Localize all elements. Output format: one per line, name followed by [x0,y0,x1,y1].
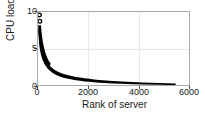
xtick-label-2000: 2000 [78,87,98,97]
series-cpu-load-head [38,25,51,67]
ytick-label-10: 10 [27,6,37,16]
xtick-label-6000: 6000 [179,87,199,97]
outlier-marker-1 [38,13,41,17]
outlier-marker-2 [38,19,42,23]
y-axis-title: CPU load [5,0,16,58]
ytick-label-5: 5 [32,43,37,53]
series-cpu-load-band [38,29,175,85]
xtick-label-4000: 4000 [129,87,149,97]
chart-figure: 0 2000 4000 6000 0 5 10 Rank of server C… [0,0,205,121]
plot-area [37,11,190,86]
ytick-label-0: 0 [32,81,37,91]
data-plot-svg [38,12,189,85]
data-series-layer [38,12,189,85]
x-axis-title: Rank of server [0,99,205,110]
